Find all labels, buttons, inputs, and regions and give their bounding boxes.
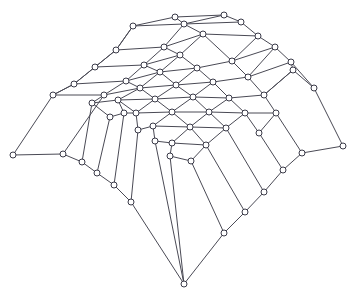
mesh-node <box>111 182 117 188</box>
mesh-node <box>299 150 305 156</box>
mesh-node <box>261 92 267 98</box>
mesh-node <box>107 114 113 120</box>
mesh-node <box>200 31 206 37</box>
mesh-node <box>135 127 141 133</box>
mesh-node <box>245 74 251 80</box>
mesh-node <box>10 152 16 158</box>
mesh-figure <box>0 0 357 299</box>
mesh-node <box>169 109 175 115</box>
mesh-node <box>290 67 296 73</box>
mesh-node <box>221 230 227 236</box>
mesh-node <box>172 14 178 20</box>
mesh-node <box>89 100 95 106</box>
mesh-node <box>187 124 193 130</box>
mesh-node <box>203 142 209 148</box>
mesh-node <box>60 151 66 157</box>
mesh-node <box>130 23 136 29</box>
mesh-node <box>181 281 187 287</box>
mesh-node <box>255 33 261 39</box>
mesh-node <box>194 65 200 71</box>
mesh-node <box>150 123 156 129</box>
mesh-node <box>71 81 77 87</box>
mesh-node <box>181 21 187 27</box>
mesh-node <box>238 19 244 25</box>
mesh-node <box>92 64 98 70</box>
mesh-node <box>223 125 229 131</box>
mesh-node <box>152 138 158 144</box>
mesh-node <box>311 85 317 91</box>
mesh-node <box>113 47 119 53</box>
mesh-node <box>190 94 196 100</box>
mesh-node <box>167 153 173 159</box>
mesh-node <box>280 167 286 173</box>
mesh-node <box>141 62 147 68</box>
mesh-node <box>169 140 175 146</box>
mesh-node <box>210 79 216 85</box>
mesh-node <box>123 78 129 84</box>
mesh-node <box>173 82 179 88</box>
mesh-node <box>50 92 56 98</box>
mesh-node <box>79 159 85 165</box>
mesh-node <box>157 69 163 75</box>
mesh-node <box>161 44 167 50</box>
mesh-node <box>115 97 121 103</box>
mesh-node <box>229 58 235 64</box>
mesh-node <box>272 44 278 50</box>
mesh-node <box>128 199 134 205</box>
mesh-node <box>340 143 346 149</box>
mesh-node <box>242 209 248 215</box>
figure-background <box>0 0 357 299</box>
mesh-node <box>177 52 183 58</box>
mesh-node <box>188 158 194 164</box>
mesh-node <box>94 170 100 176</box>
mesh-node <box>221 12 227 18</box>
mesh-node <box>137 85 143 91</box>
mesh-node <box>273 110 279 116</box>
mesh-node <box>242 110 248 116</box>
mesh-canvas <box>0 0 357 299</box>
mesh-node <box>256 130 262 136</box>
mesh-node <box>121 110 127 116</box>
mesh-node <box>152 96 158 102</box>
mesh-node <box>206 109 212 115</box>
mesh-node <box>133 110 139 116</box>
mesh-node <box>261 189 267 195</box>
mesh-node <box>226 95 232 101</box>
mesh-node <box>101 92 107 98</box>
mesh-node <box>288 59 294 65</box>
